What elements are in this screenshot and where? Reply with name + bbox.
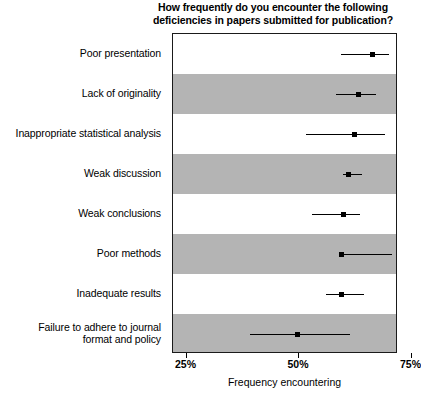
category-label: Inadequate results bbox=[0, 287, 161, 299]
value-axis-tick-label: 75% bbox=[400, 358, 421, 370]
category-label-line: format and policy bbox=[0, 333, 161, 345]
category-label-line: Inadequate results bbox=[0, 287, 161, 299]
plot-area bbox=[172, 33, 397, 353]
category-label: Weak conclusions bbox=[0, 207, 161, 219]
data-point-marker bbox=[346, 172, 351, 177]
value-axis: 25%50%75% bbox=[172, 353, 397, 373]
error-bar bbox=[250, 334, 350, 335]
category-label: Failure to adhere to journalformat and p… bbox=[0, 321, 161, 345]
data-point-marker bbox=[356, 92, 361, 97]
data-series-layer bbox=[173, 34, 396, 352]
error-bar bbox=[340, 254, 393, 255]
category-label: Lack of originality bbox=[0, 87, 161, 99]
category-label: Weak discussion bbox=[0, 167, 161, 179]
value-axis-tick-label: 25% bbox=[175, 358, 196, 370]
category-label: Poor presentation bbox=[0, 47, 161, 59]
value-axis-tick-label: 50% bbox=[287, 358, 308, 370]
category-label-line: Inappropriate statistical analysis bbox=[0, 127, 161, 139]
category-axis-labels: Poor presentationLack of originalityInap… bbox=[0, 33, 167, 353]
category-label-line: Weak conclusions bbox=[0, 207, 161, 219]
category-label-line: Weak discussion bbox=[0, 167, 161, 179]
error-bar bbox=[326, 294, 365, 295]
data-point-marker bbox=[339, 252, 344, 257]
data-point-marker bbox=[370, 52, 375, 57]
category-label-line: Failure to adhere to journal bbox=[0, 321, 161, 333]
chart-title-line-1: How frequently do you encounter the foll… bbox=[132, 1, 414, 14]
value-axis-title: Frequency encountering bbox=[172, 376, 397, 388]
data-point-marker bbox=[352, 132, 357, 137]
chart-title: How frequently do you encounter the foll… bbox=[132, 1, 414, 27]
category-label-line: Lack of originality bbox=[0, 87, 161, 99]
error-bar bbox=[341, 54, 389, 55]
chart-title-line-2: deficiencies in papers submitted for pub… bbox=[132, 14, 414, 27]
category-label: Inappropriate statistical analysis bbox=[0, 127, 161, 139]
error-bar bbox=[312, 214, 360, 215]
data-point-marker bbox=[341, 212, 346, 217]
error-bar bbox=[306, 134, 385, 135]
category-label-line: Poor presentation bbox=[0, 47, 161, 59]
data-point-marker bbox=[295, 332, 300, 337]
category-label: Poor methods bbox=[0, 247, 161, 259]
category-label-line: Poor methods bbox=[0, 247, 161, 259]
data-point-marker bbox=[339, 292, 344, 297]
